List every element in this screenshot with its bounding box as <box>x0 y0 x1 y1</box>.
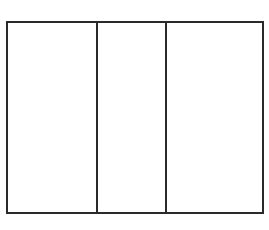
three-panel-diagram <box>0 0 269 230</box>
diagram-canvas <box>0 0 269 230</box>
outer-frame <box>7 22 263 213</box>
